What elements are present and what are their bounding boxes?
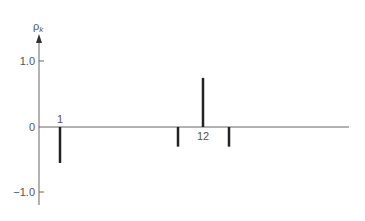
acf-chart: 1.0 0 −1.0 ρk 1 12 [0, 0, 365, 221]
y-axis-arrow-icon [36, 34, 42, 43]
y-axis-label: ρk [33, 20, 44, 34]
lag-label-1: 1 [57, 113, 63, 125]
lag-label-12: 12 [197, 130, 209, 142]
tick-label-zero: 0 [29, 121, 35, 133]
tick-label-pos: 1.0 [20, 55, 35, 67]
tick-label-neg: −1.0 [13, 186, 35, 198]
acf-spikes [60, 78, 229, 163]
